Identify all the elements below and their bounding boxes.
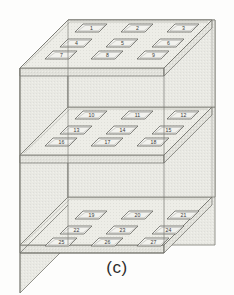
tile-23-label: 23 bbox=[120, 227, 126, 233]
tile-8-label: 8 bbox=[106, 52, 109, 58]
tile-14-label: 14 bbox=[120, 127, 126, 133]
tile-21-label: 21 bbox=[181, 212, 187, 218]
tile-13-label: 13 bbox=[74, 127, 80, 133]
tile-15-label: 15 bbox=[166, 127, 172, 133]
tile-17-label: 17 bbox=[105, 139, 111, 145]
cube-diagram: 19 20 21 22 23 bbox=[0, 0, 234, 295]
tile-9-label: 9 bbox=[152, 52, 155, 58]
middle-slab-front-edge bbox=[20, 155, 164, 163]
tile-7-label: 7 bbox=[60, 52, 63, 58]
tile-18-label: 18 bbox=[151, 139, 157, 145]
tile-25-label: 25 bbox=[59, 239, 65, 245]
tile-11-label: 11 bbox=[135, 112, 140, 118]
tile-16-label: 16 bbox=[59, 139, 65, 145]
tile-6-label: 6 bbox=[167, 40, 170, 46]
figure-container: 19 20 21 22 23 bbox=[0, 0, 234, 295]
tile-4-label: 4 bbox=[75, 40, 78, 46]
tile-26-label: 26 bbox=[105, 239, 111, 245]
figure-caption: (c) bbox=[0, 258, 234, 278]
tile-24-label: 24 bbox=[166, 227, 172, 233]
tile-22-label: 22 bbox=[74, 227, 80, 233]
tile-20-label: 20 bbox=[135, 212, 141, 218]
tile-3-label: 3 bbox=[182, 25, 185, 31]
top-slab-front-edge bbox=[20, 68, 164, 76]
tile-10-label: 10 bbox=[89, 112, 95, 118]
tile-5-label: 5 bbox=[121, 40, 124, 46]
tile-2-label: 2 bbox=[136, 25, 139, 31]
tile-1-label: 1 bbox=[90, 25, 93, 31]
tile-27-label: 27 bbox=[151, 239, 157, 245]
tile-12-label: 12 bbox=[181, 112, 187, 118]
tile-19-label: 19 bbox=[89, 212, 95, 218]
